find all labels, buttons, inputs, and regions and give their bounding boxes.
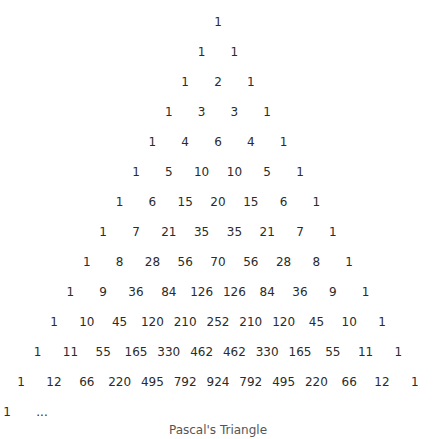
- figure-caption: Pascal's Triangle: [0, 421, 436, 439]
- triangle-row: 14641: [0, 133, 436, 151]
- triangle-row: 11: [0, 43, 436, 61]
- triangle-row: 1126622049579292479249522066121: [0, 373, 436, 391]
- triangle-cell: 1: [264, 133, 304, 151]
- triangle-cell: 1: [378, 343, 418, 361]
- triangle-row: 15101051: [0, 163, 436, 181]
- ellipsis: ...: [22, 403, 62, 421]
- triangle-row: 1615201561: [0, 193, 436, 211]
- triangle-cell: 1: [198, 13, 238, 31]
- triangle-row: 1331: [0, 103, 436, 121]
- triangle-cell: 1: [231, 73, 271, 91]
- triangle-cell: 1: [395, 373, 435, 391]
- triangle-cell: 1: [214, 43, 254, 61]
- triangle-cell: 1: [329, 253, 369, 271]
- triangle-row: 193684126126843691: [0, 283, 436, 301]
- triangle-cell: 1: [247, 103, 287, 121]
- triangle-row: 172135352171: [0, 223, 436, 241]
- triangle-cell: 1: [346, 283, 386, 301]
- triangle-row: 1: [0, 13, 436, 31]
- triangle-row: 1115516533046246233016555111: [0, 343, 436, 361]
- triangle-cell: 1: [280, 163, 320, 181]
- triangle-row: 121: [0, 73, 436, 91]
- triangle-row-continuation: 1...: [0, 403, 436, 421]
- triangle-row: 18285670562881: [0, 253, 436, 271]
- triangle-cell: 1: [313, 223, 353, 241]
- triangle-cell: 1: [362, 313, 402, 331]
- triangle-cell: 1: [296, 193, 336, 211]
- triangle-row: 1104512021025221012045101: [0, 313, 436, 331]
